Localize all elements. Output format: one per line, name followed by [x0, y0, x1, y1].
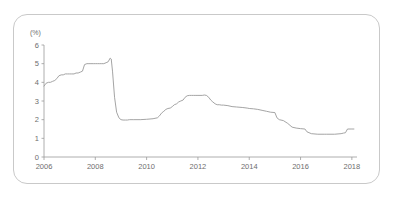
y-tick-label: 0	[35, 153, 39, 162]
y-tick-label: 1	[35, 134, 39, 143]
y-tick-label: 2	[35, 115, 39, 124]
x-tick-label: 2006	[36, 162, 53, 171]
x-tick-label: 2016	[292, 162, 309, 171]
series-group	[44, 58, 354, 134]
data-line-rate	[44, 58, 354, 134]
x-tick-label: 2018	[344, 162, 361, 171]
y-axis: 0123456	[35, 41, 44, 162]
y-tick-label: 3	[35, 97, 39, 106]
chart-svg: 0123456 2006200820102012201420162018	[0, 0, 393, 198]
x-tick-label: 2010	[138, 162, 155, 171]
y-tick-label: 5	[35, 59, 39, 68]
x-tick-label: 2008	[87, 162, 104, 171]
line-chart: (%) 0123456 2006200820102012201420162018	[0, 0, 393, 198]
x-tick-label: 2012	[190, 162, 207, 171]
y-axis-unit-label: (%)	[30, 29, 41, 36]
y-tick-label: 4	[35, 78, 39, 87]
y-tick-label: 6	[35, 41, 39, 50]
x-axis: 2006200820102012201420162018	[36, 157, 361, 171]
x-tick-label: 2014	[241, 162, 258, 171]
